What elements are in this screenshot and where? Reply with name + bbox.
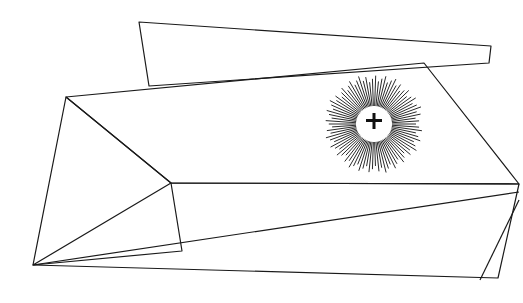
line-drawing [0,0,523,303]
crossing-line [33,192,519,265]
top-plane [66,63,519,184]
rear-panel [139,22,491,86]
center-emblem-icon [366,113,382,129]
front-face [33,183,519,278]
left-face [33,97,182,265]
right-diagonal [480,200,519,280]
